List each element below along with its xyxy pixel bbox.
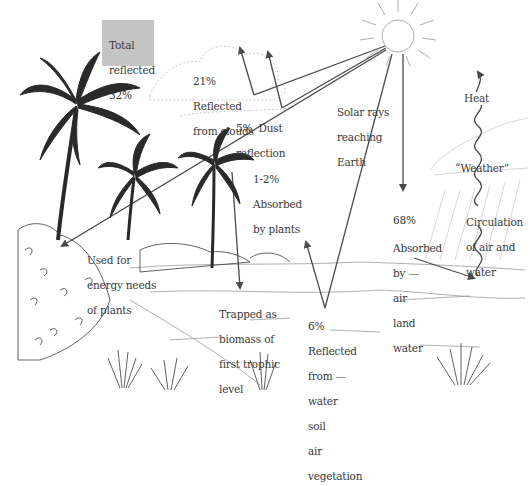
absorbed-by-plants-label: 1-2% Absorbed by plants bbox=[253, 160, 302, 248]
label-line: 32% bbox=[109, 89, 154, 102]
surface-reflection-label: 6% Reflected from — water soil air veget… bbox=[308, 307, 362, 486]
energy-needs-label: Used for energy needs of plants bbox=[87, 241, 156, 329]
heat-label: Heat bbox=[464, 92, 489, 105]
label-line: land bbox=[393, 317, 442, 330]
total-reflected-label: Total reflected 32% bbox=[102, 20, 154, 114]
label-line: Reflected bbox=[308, 345, 362, 358]
absorbed-68-label: 68% Absorbed by — air land water bbox=[393, 201, 442, 367]
label-line: 5% Dust bbox=[236, 122, 285, 135]
label-line: Solar rays bbox=[337, 106, 389, 119]
solar-rays-label: Solar rays reaching Earth bbox=[337, 93, 389, 181]
label-line: reflected bbox=[109, 64, 154, 77]
label-line: water bbox=[308, 395, 362, 408]
label-line: Total bbox=[109, 39, 154, 52]
circulation-label: Circulation of air and water bbox=[466, 203, 523, 291]
label-line: of plants bbox=[87, 304, 156, 317]
label-line: by plants bbox=[253, 223, 302, 236]
label-line: level bbox=[219, 383, 280, 396]
label-line: Circulation bbox=[466, 216, 523, 229]
label-line: soil bbox=[308, 420, 362, 433]
label-line: 1-2% bbox=[253, 173, 302, 186]
label-line: vegetation bbox=[308, 470, 362, 483]
label-line: from — bbox=[308, 370, 362, 383]
label-line: Absorbed bbox=[393, 242, 442, 255]
label-line: 68% bbox=[393, 214, 442, 227]
weather-label: “Weather” bbox=[455, 162, 509, 175]
trapped-biomass-label: Trapped as biomass of first trophic leve… bbox=[219, 295, 280, 408]
label-line: 21% bbox=[193, 75, 254, 88]
label-line: water bbox=[466, 266, 523, 279]
label-line: energy needs bbox=[87, 279, 156, 292]
label-line: water bbox=[393, 342, 442, 355]
label-line: Used for bbox=[87, 254, 156, 267]
total-reflected-box: Total reflected 32% bbox=[102, 20, 154, 66]
label-line: of air and bbox=[466, 241, 523, 254]
label-line: first trophic bbox=[219, 358, 280, 371]
label-line: reflection bbox=[236, 147, 285, 160]
label-line: Absorbed bbox=[253, 198, 302, 211]
label-line: air bbox=[308, 445, 362, 458]
label-line: Earth bbox=[337, 156, 389, 169]
label-line: by — bbox=[393, 267, 442, 280]
label-line: biomass of bbox=[219, 333, 280, 346]
label-line: 6% bbox=[308, 320, 362, 333]
label-line: reaching bbox=[337, 131, 389, 144]
label-line: Trapped as bbox=[219, 308, 280, 321]
label-line: air bbox=[393, 292, 442, 305]
